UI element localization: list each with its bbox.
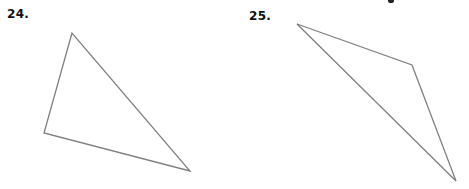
triangle-24 bbox=[44, 33, 190, 171]
triangle-figures bbox=[0, 0, 469, 189]
triangle-25 bbox=[297, 24, 456, 181]
